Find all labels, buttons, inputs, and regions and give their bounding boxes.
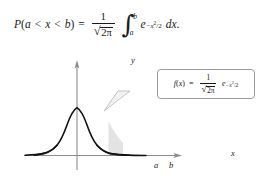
y-axis-label: y (131, 55, 135, 65)
formula-period: . (177, 19, 180, 31)
callout-exponent-divisor: /2 (234, 82, 238, 88)
formula-relation-1: < (35, 19, 42, 31)
probability-formula: P(a<x<b) = 1 √2π ∫ b a e−x2/2 dx. (14, 11, 179, 38)
formula-relation-2: < (54, 19, 61, 31)
formula-exponent-variable: −x (146, 22, 154, 30)
formula-equals: = (78, 19, 85, 31)
formula-radicand: 2π (100, 27, 113, 39)
formula-radical: √2π (94, 25, 113, 38)
callout-pointer (104, 91, 130, 111)
callout-radicand: 2π (206, 86, 216, 95)
callout-fraction: 1 √2π (200, 74, 216, 94)
formula-var-x: x (45, 19, 50, 31)
tick-label-a: a (154, 160, 158, 170)
integral-limits: b a (133, 16, 137, 34)
formula-coefficient-fraction: 1 √2π (92, 11, 115, 38)
callout-close-paren: ) (182, 80, 185, 88)
callout-exponent: −x2/2 (226, 83, 239, 85)
integral-upper-limit: b (133, 13, 137, 21)
integral-lower-limit: a (130, 29, 137, 37)
callout-fraction-denominator: √2π (200, 83, 216, 95)
formula-fraction-numerator: 1 (98, 11, 110, 23)
formula-function-name: P (14, 19, 21, 31)
x-axis-label: x (231, 148, 235, 158)
formula-exponent-divisor: /2 (156, 22, 161, 30)
formula-integrand-exponent: −x2/2 (146, 23, 162, 26)
normal-curve-left-tail (34, 145, 57, 155)
formula-close-paren: ) (70, 19, 74, 31)
formula-integral: ∫ b a (122, 16, 137, 34)
callout-equals: = (189, 80, 194, 88)
shaded-region (109, 121, 124, 155)
callout-radical: √2π (201, 85, 215, 95)
formula-fraction-denominator: √2π (92, 23, 115, 38)
formula-var-a: a (25, 19, 31, 31)
tick-label-b: b (169, 160, 173, 170)
callout-formula: f(x)= 1 √2π e−x2/2 (174, 74, 238, 94)
function-callout-box: f(x)= 1 √2π e−x2/2 (157, 69, 255, 99)
callout-fraction-numerator: 1 (205, 74, 213, 83)
formula-differential: dx (166, 19, 177, 31)
